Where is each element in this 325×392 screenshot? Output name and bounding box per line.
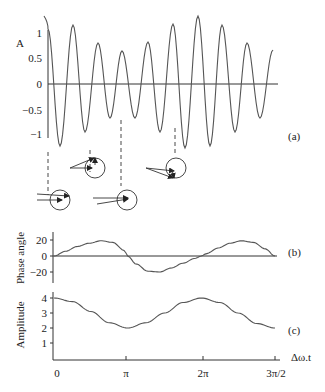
panel-b-ylabel: Phase angle: [14, 232, 26, 284]
panel-c-ytick: 1: [42, 337, 48, 349]
x-axis-title: Δω.t: [291, 351, 311, 363]
panel-a: 1 0.5 0 −0.5 −1 A (a): [16, 16, 301, 148]
panel-c-ytick: 4: [42, 292, 48, 304]
panel-b-ytick: −20: [30, 266, 48, 278]
panel-b-ytick: 20: [36, 234, 48, 246]
panel-b-ytick: 0: [42, 250, 48, 262]
panel-a-ytick: 0: [37, 78, 43, 90]
x-tick-label: π: [123, 367, 129, 379]
x-tick-label: 3π/2: [266, 367, 286, 379]
x-tick-label: 2π: [197, 367, 209, 379]
panel-c: 4 3 2 1 Amplitude 0 π 2π 3π/2 Δω.t (c): [14, 292, 311, 379]
panel-a-beat-curve: [44, 16, 273, 148]
panel-a-ytick: −0.5: [22, 104, 42, 116]
panel-a-label: (a): [288, 130, 301, 143]
panel-b: 20 0 −20 Phase angle (b): [14, 232, 301, 284]
phasor-aligned: [37, 190, 70, 210]
panel-a-ytick: 1: [37, 27, 43, 39]
beat-figure: 1 0.5 0 −0.5 −1 A (a): [0, 0, 325, 392]
phasor-rotated: [146, 158, 186, 178]
phasor-opposed: [93, 190, 137, 210]
x-tick-label: 0: [54, 367, 60, 379]
panel-a-ylabel: A: [16, 37, 24, 49]
panel-c-ytick: 3: [42, 307, 48, 319]
panel-c-ytick: 2: [42, 322, 48, 334]
panel-b-label: (b): [288, 246, 301, 259]
panel-c-amplitude-curve: [54, 298, 275, 328]
panel-c-ylabel: Amplitude: [14, 301, 26, 348]
panel-c-label: (c): [288, 324, 301, 337]
panel-a-ytick: −1: [30, 128, 42, 140]
phasor-diagrams: [37, 120, 186, 210]
panel-a-ytick: 0.5: [28, 52, 42, 64]
phasor-partial: [70, 158, 105, 178]
